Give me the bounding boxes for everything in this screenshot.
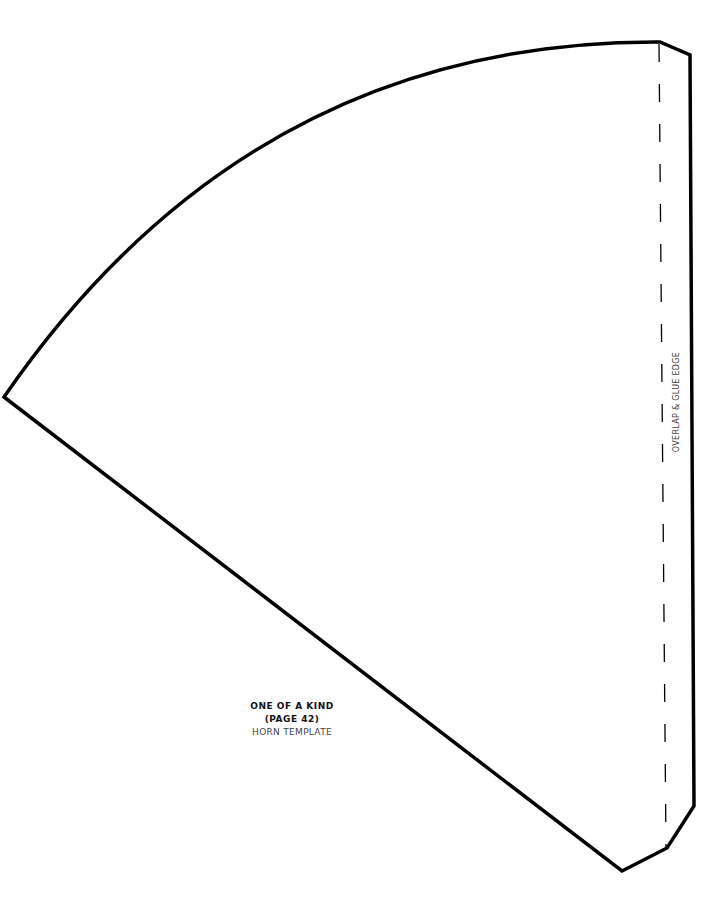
fold-dashed-line bbox=[659, 44, 666, 848]
horn-template-shape bbox=[0, 0, 726, 900]
template-caption: ONE OF A KIND (PAGE 42) HORN TEMPLATE bbox=[232, 700, 352, 739]
cut-outline bbox=[4, 42, 694, 871]
caption-title: ONE OF A KIND bbox=[232, 700, 352, 713]
glue-edge-label: OVERLAP & GLUE EDGE bbox=[672, 352, 681, 452]
horn-template-page: ONE OF A KIND (PAGE 42) HORN TEMPLATE OV… bbox=[0, 0, 726, 900]
caption-page: (PAGE 42) bbox=[232, 713, 352, 726]
caption-subtitle: HORN TEMPLATE bbox=[232, 726, 352, 739]
